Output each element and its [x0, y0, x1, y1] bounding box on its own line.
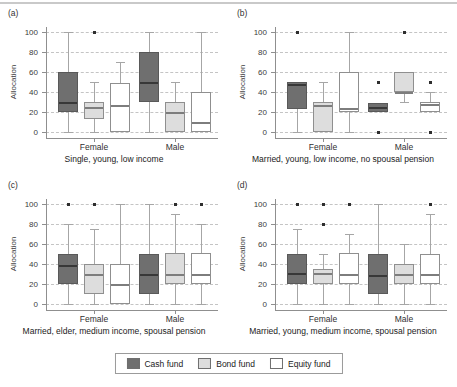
whisker-cap-male-bond-fund [400, 102, 409, 103]
median-male-cash-fund [140, 274, 158, 276]
panel-letter: (a) [8, 8, 18, 18]
whisker-lower-male-bond-fund [404, 284, 405, 304]
whisker-lower-male-cash-fund [378, 294, 379, 304]
whisker-upper-female-equity-fund [349, 32, 350, 72]
whisker-cap-female-equity-fund [345, 32, 354, 33]
whisker-lower-female-bond-fund [94, 294, 95, 304]
whisker-lower-male-bond-fund [175, 284, 176, 304]
whisker-cap-female-cash-fund [293, 132, 302, 133]
whisker-cap-female-bond-fund [319, 304, 328, 305]
box-male-equity-fund [191, 92, 211, 132]
y-tick-label: 60 [237, 240, 267, 249]
outlier-female-cash-fund [296, 31, 299, 34]
whisker-upper-male-equity-fund [430, 92, 431, 102]
median-male-equity-fund [192, 274, 210, 276]
outlier-female-cash-fund [67, 203, 70, 206]
box-female-cash-fund [58, 254, 78, 284]
whisker-cap-male-bond-fund [400, 304, 409, 305]
outlier-female-bond-fund [93, 31, 96, 34]
y-tick-label: 40 [237, 260, 267, 269]
gridline [275, 32, 447, 33]
whisker-lower-female-cash-fund [68, 112, 69, 132]
y-tick-label: 100 [237, 28, 267, 37]
whisker-cap-female-bond-fund [90, 82, 99, 83]
x-group-label-female: Female [64, 314, 124, 324]
whisker-upper-female-cash-fund [297, 229, 298, 254]
whisker-upper-female-bond-fund [323, 254, 324, 269]
panel-caption: Married, young, low income, no spousal p… [229, 154, 457, 164]
y-tick-label: 60 [8, 240, 38, 249]
whisker-cap-male-equity-fund [426, 304, 435, 305]
whisker-lower-female-equity-fund [349, 284, 350, 304]
y-tick-label: 20 [237, 108, 267, 117]
whisker-upper-female-equity-fund [349, 234, 350, 253]
median-female-cash-fund [59, 102, 77, 104]
box-female-cash-fund [287, 82, 307, 109]
median-male-cash-fund [369, 107, 387, 109]
panel-letter: (c) [8, 180, 18, 190]
y-axis-line [46, 199, 47, 310]
box-male-cash-fund [368, 254, 388, 294]
whisker-upper-female-bond-fund [323, 82, 324, 102]
whisker-cap-male-cash-fund [374, 204, 383, 205]
y-tick-label: 100 [237, 200, 267, 209]
median-male-equity-fund [192, 122, 210, 124]
median-male-cash-fund [140, 82, 158, 84]
gridline [46, 204, 218, 205]
whisker-lower-female-cash-fund [68, 284, 69, 304]
y-tick-label: 100 [8, 28, 38, 37]
panel-letter: (b) [237, 8, 247, 18]
panel-a: (a)Allocation020406080100FemaleMaleSingl… [0, 6, 228, 178]
whisker-lower-female-cash-fund [297, 109, 298, 132]
median-female-equity-fund [340, 108, 358, 110]
y-tick-label: 100 [8, 200, 38, 209]
plot-area: 020406080100FemaleMale [46, 32, 218, 132]
panel-caption: Married, young, medium income, spousal p… [229, 326, 457, 336]
legend-item-bond-fund: Bond fund [198, 358, 255, 369]
x-group-label-male: Male [374, 314, 434, 324]
whisker-cap-female-equity-fund [345, 234, 354, 235]
whisker-cap-female-cash-fund [293, 304, 302, 305]
legend-item-cash-fund: Cash fund [126, 358, 183, 369]
whisker-cap-female-bond-fund [319, 254, 328, 255]
whisker-cap-male-cash-fund [145, 304, 154, 305]
whisker-upper-male-equity-fund [201, 32, 202, 92]
outlier-male-equity-fund [200, 203, 203, 206]
whisker-cap-female-cash-fund [64, 304, 73, 305]
whisker-cap-male-equity-fund [197, 32, 206, 33]
outlier-female-cash-fund [296, 203, 299, 206]
whisker-cap-female-equity-fund [116, 204, 125, 205]
whisker-upper-female-equity-fund [120, 62, 121, 83]
gridline [275, 284, 447, 285]
whisker-upper-female-cash-fund [68, 224, 69, 254]
outlier-female-bond-fund [322, 203, 325, 206]
plot-area: 020406080100FemaleMale [46, 204, 218, 304]
whisker-cap-male-cash-fund [145, 204, 154, 205]
y-axis-line [46, 27, 47, 138]
x-axis-line [275, 310, 447, 311]
y-axis-line [275, 199, 276, 310]
whisker-lower-female-bond-fund [323, 284, 324, 304]
median-male-bond-fund [395, 274, 413, 276]
plot-area: 020406080100FemaleMale [275, 32, 447, 132]
panel-d: (d)Allocation020406080100FemaleMaleMarri… [229, 178, 457, 350]
x-axis-line [275, 138, 447, 139]
y-tick-label: 60 [8, 68, 38, 77]
whisker-lower-male-cash-fund [149, 102, 150, 132]
whisker-cap-male-equity-fund [426, 92, 435, 93]
gridline [46, 244, 218, 245]
median-female-cash-fund [288, 84, 306, 86]
boxplot-figure: (a)Allocation020406080100FemaleMaleSingl… [0, 0, 457, 387]
whisker-lower-female-equity-fund [349, 112, 350, 132]
median-female-cash-fund [288, 273, 306, 275]
whisker-upper-male-bond-fund [175, 82, 176, 102]
box-male-bond-fund [165, 102, 185, 132]
whisker-upper-male-cash-fund [149, 204, 150, 254]
box-female-bond-fund [84, 264, 104, 294]
x-group-label-female: Female [64, 142, 124, 152]
y-tick-label: 0 [8, 300, 38, 309]
outlier-male-equity-fund [429, 203, 432, 206]
equity-fund-swatch [270, 358, 283, 369]
bond-fund-swatch [198, 358, 211, 369]
whisker-cap-male-equity-fund [197, 224, 206, 225]
